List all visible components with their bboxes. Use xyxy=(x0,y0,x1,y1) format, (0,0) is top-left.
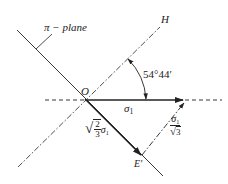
sigma1-subscript: 1 xyxy=(129,107,133,116)
normal-denominator: 3 xyxy=(176,126,181,137)
projection-magnitude-label: √ 23 σ1 xyxy=(85,119,109,139)
hydrostatic-axis-H xyxy=(18,27,160,167)
sqrt-symbol: √ 23 xyxy=(85,119,101,139)
pi-symbol: π − plane xyxy=(44,21,87,33)
pi-plane-stress-diagram xyxy=(0,0,228,184)
coef-denominator: 3 xyxy=(95,130,100,139)
sigma1-label: σ1 xyxy=(124,103,133,116)
angle-label: 54°44′ xyxy=(143,69,172,80)
pi-plane-line xyxy=(17,30,163,176)
projection-sigma-sub: 1 xyxy=(106,129,109,136)
H-label: H xyxy=(161,14,169,25)
normal-sigma-sub: 1 xyxy=(176,118,179,125)
pi-plane-leader xyxy=(36,34,52,49)
E-prime-label: E′ xyxy=(134,159,142,169)
normal-magnitude-label: σ1 √3 xyxy=(170,114,181,137)
origin-label: O xyxy=(81,86,89,97)
pi-plane-label: π − plane xyxy=(44,22,87,33)
